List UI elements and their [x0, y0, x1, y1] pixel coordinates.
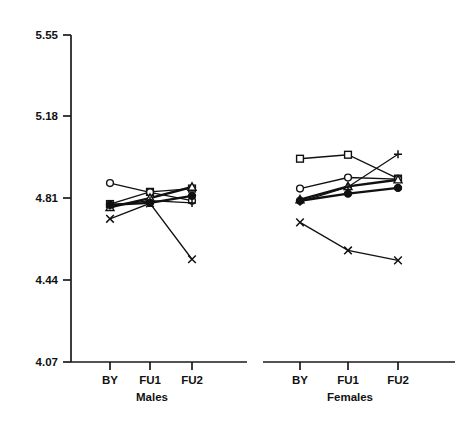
panel-title-females: Females	[327, 391, 373, 403]
females-cat-label-fu1: FU1	[337, 374, 359, 386]
data-point	[189, 192, 196, 199]
y-tick-label-4-07: 4.07	[36, 356, 58, 368]
series-line	[300, 222, 398, 260]
data-point	[345, 151, 352, 158]
data-point	[395, 184, 402, 191]
males-x-axis: BY FU1 FU2 Males	[71, 362, 247, 403]
males-cat-label-by: BY	[102, 374, 118, 386]
data-point	[345, 190, 352, 197]
y-tick-label-5-55: 5.55	[36, 29, 59, 41]
y-tick-label-4-44: 4.44	[36, 274, 59, 286]
data-point	[296, 219, 304, 227]
males-series-layer	[106, 180, 196, 263]
data-point	[107, 180, 114, 187]
series-line	[110, 203, 192, 259]
panel-title-males: Males	[136, 391, 168, 403]
y-tick-label-4-81: 4.81	[36, 192, 59, 204]
females-series-layer	[296, 150, 402, 264]
data-point	[297, 155, 304, 162]
series-cross-females	[296, 219, 402, 265]
series-cross-males	[106, 200, 196, 263]
profile-plot-figure: 5.55 5.18 4.81 4.44 4.07 BY FU1 FU2 Male…	[0, 0, 470, 425]
data-point	[188, 255, 196, 263]
females-x-axis: BY FU1 FU2 Females	[263, 362, 455, 403]
y-axis: 5.55 5.18 4.81 4.44 4.07	[36, 29, 71, 368]
males-cat-label-fu2: FU2	[181, 374, 203, 386]
females-cat-label-by: BY	[292, 374, 308, 386]
females-cat-label-fu2: FU2	[387, 374, 409, 386]
data-point	[345, 174, 352, 181]
data-point	[297, 185, 304, 192]
males-cat-label-fu1: FU1	[139, 374, 161, 386]
y-tick-label-5-18: 5.18	[36, 110, 59, 122]
data-point	[394, 150, 402, 158]
data-point	[106, 215, 114, 223]
